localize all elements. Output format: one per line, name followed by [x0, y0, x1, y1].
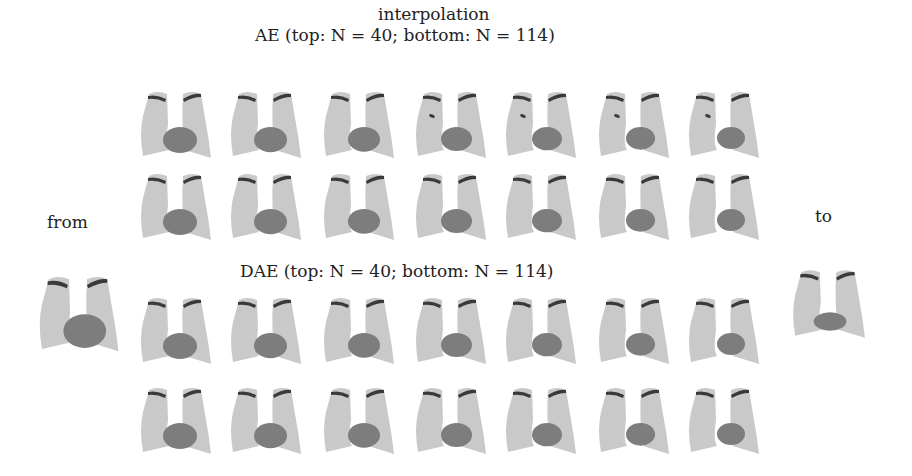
dae-top-step-7-image — [683, 290, 763, 370]
dae-bottom-step-3-image — [318, 380, 398, 460]
ae-top-step-1-image — [135, 84, 215, 164]
dae-bottom-step-1-image — [135, 380, 215, 460]
ae-top-step-3-image — [318, 84, 398, 164]
to-label: to — [815, 206, 832, 226]
from-image — [30, 268, 126, 358]
dae-bottom-step-4-image — [410, 380, 490, 460]
dae-bottom-step-7-image — [683, 380, 763, 460]
dae-bottom-step-2-image — [225, 380, 305, 460]
ae-bottom-step-4-image — [410, 166, 490, 246]
figure-title: interpolation — [378, 4, 490, 24]
dae-top-step-6-image — [593, 290, 673, 370]
ae-top-step-5-image — [500, 84, 580, 164]
ae-label: AE (top: N = 40; bottom: N = 114) — [255, 25, 555, 45]
from-label: from — [47, 212, 88, 232]
dae-bottom-step-5-image — [500, 380, 580, 460]
dae-top-step-3-image — [318, 290, 398, 370]
ae-bottom-step-2-image — [225, 166, 305, 246]
ae-top-step-7-image — [683, 84, 763, 164]
ae-top-step-2-image — [225, 84, 305, 164]
dae-label: DAE (top: N = 40; bottom: N = 114) — [240, 261, 553, 281]
ae-bottom-step-5-image — [500, 166, 580, 246]
dae-top-step-4-image — [410, 290, 490, 370]
ae-bottom-step-1-image — [135, 166, 215, 246]
dae-top-step-2-image — [225, 290, 305, 370]
dae-bottom-step-6-image — [593, 380, 673, 460]
ae-bottom-step-7-image — [683, 166, 763, 246]
dae-top-step-5-image — [500, 290, 580, 370]
ae-bottom-step-3-image — [318, 166, 398, 246]
ae-top-step-4-image — [410, 84, 490, 164]
dae-top-step-1-image — [135, 290, 215, 370]
ae-top-step-6-image — [593, 84, 673, 164]
to-image — [783, 262, 873, 344]
ae-bottom-step-6-image — [593, 166, 673, 246]
